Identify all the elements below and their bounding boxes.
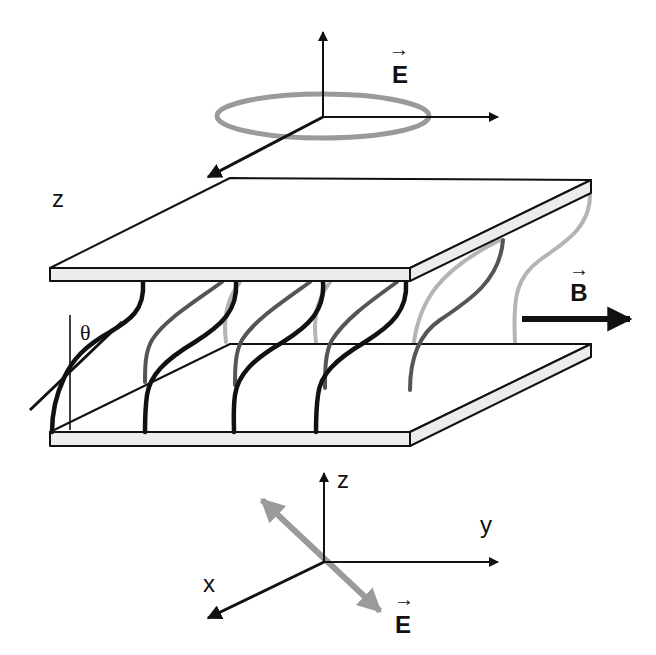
b-field-arrow-marker: →: [569, 258, 589, 280]
top-e-field-arrow-marker: →: [389, 38, 409, 60]
bottom-e-field-double-arrow: [262, 500, 380, 611]
bottom-z-label: z: [337, 466, 349, 493]
bottom-e-field-label: E: [395, 611, 411, 638]
bottom-plate: [50, 344, 591, 446]
bottom-x-label: x: [203, 570, 215, 597]
tilt-director-line: [30, 322, 122, 410]
top-axes-group: → E: [208, 32, 498, 177]
top-e-field-label: E: [392, 61, 408, 88]
bottom-e-field-arrow-marker: →: [394, 588, 414, 610]
bottom-axes-group: z y x → E: [203, 466, 498, 638]
top-plate: [50, 178, 591, 281]
tilt-angle-label: θ: [80, 320, 91, 345]
magnetic-field-group: → B: [522, 258, 630, 319]
bottom-plate-front-edge: [50, 432, 410, 446]
top-plate-front-edge: [50, 268, 410, 281]
liquid-crystal-cell-diagram: → E θ z →: [0, 0, 656, 655]
bottom-y-label: y: [480, 511, 492, 538]
cell-z-label: z: [52, 185, 64, 212]
b-field-label: B: [570, 279, 587, 306]
bottom-x-axis: [208, 562, 324, 618]
